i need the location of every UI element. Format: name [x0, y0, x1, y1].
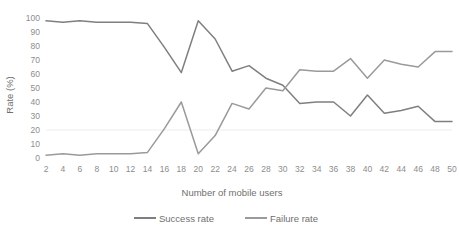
- y-tick-label: 0: [35, 153, 40, 163]
- chart-legend: Success rateFailure rate: [134, 213, 318, 224]
- x-tick-label: 4: [61, 164, 66, 174]
- x-tick-label: 32: [295, 164, 305, 174]
- x-tick-label: 50: [447, 164, 457, 174]
- y-tick-label: 70: [31, 55, 41, 65]
- y-tick-label: 60: [31, 69, 41, 79]
- y-tick-label: 90: [31, 27, 41, 37]
- x-tick-label: 22: [210, 164, 220, 174]
- data-series-lines: [46, 21, 452, 155]
- y-tick-label: 20: [31, 125, 41, 135]
- x-tick-label: 24: [227, 164, 237, 174]
- x-tick-label: 30: [278, 164, 288, 174]
- legend-label-failure-rate: Failure rate: [270, 213, 318, 224]
- y-tick-label: 10: [31, 139, 41, 149]
- x-tick-label: 46: [413, 164, 423, 174]
- line-chart-figure: 0102030405060708090100 24681012141618202…: [0, 0, 459, 236]
- x-tick-label: 10: [109, 164, 119, 174]
- x-tick-label: 36: [329, 164, 339, 174]
- chart-plot-area: 0102030405060708090100 24681012141618202…: [0, 0, 459, 236]
- y-tick-label: 50: [31, 83, 41, 93]
- x-tick-label: 18: [177, 164, 187, 174]
- series-line-success-rate: [46, 21, 452, 122]
- x-tick-label: 48: [430, 164, 440, 174]
- series-line-failure-rate: [46, 52, 452, 156]
- x-tick-label: 16: [160, 164, 170, 174]
- x-tick-label: 40: [363, 164, 373, 174]
- x-axis-tick-labels: 2468101214161820222426283032343638404244…: [44, 164, 457, 174]
- x-axis-title: Number of mobile users: [182, 187, 283, 198]
- x-tick-label: 38: [346, 164, 356, 174]
- x-tick-label: 34: [312, 164, 322, 174]
- x-tick-label: 28: [261, 164, 271, 174]
- x-tick-label: 6: [77, 164, 82, 174]
- y-tick-label: 80: [31, 41, 41, 51]
- y-tick-label: 100: [26, 13, 40, 23]
- y-axis-title: Rate (%): [4, 76, 15, 113]
- legend-label-success-rate: Success rate: [159, 213, 214, 224]
- x-tick-label: 26: [244, 164, 254, 174]
- x-tick-label: 12: [126, 164, 136, 174]
- x-tick-label: 44: [397, 164, 407, 174]
- y-axis-tick-labels: 0102030405060708090100: [26, 13, 40, 163]
- x-tick-label: 8: [94, 164, 99, 174]
- x-tick-label: 14: [143, 164, 153, 174]
- x-tick-label: 20: [194, 164, 204, 174]
- x-tick-label: 42: [380, 164, 390, 174]
- y-tick-label: 30: [31, 111, 41, 121]
- y-tick-label: 40: [31, 97, 41, 107]
- x-tick-label: 2: [44, 164, 49, 174]
